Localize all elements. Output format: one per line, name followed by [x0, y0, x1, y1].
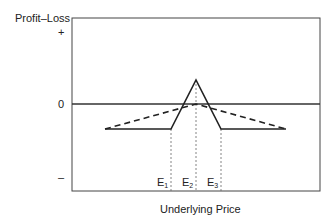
y-tick-minus: – [58, 171, 64, 183]
e2-label: E2 [182, 176, 193, 192]
x-axis-label: Underlying Price [160, 203, 241, 215]
e1-label: E1 [157, 176, 168, 192]
e3-label: E3 [207, 176, 218, 192]
y-tick-plus: + [58, 26, 64, 38]
y-axis-label: Profit–Loss [15, 12, 70, 24]
pre-expiration-curve [105, 104, 286, 129]
y-tick-zero: 0 [58, 98, 64, 110]
